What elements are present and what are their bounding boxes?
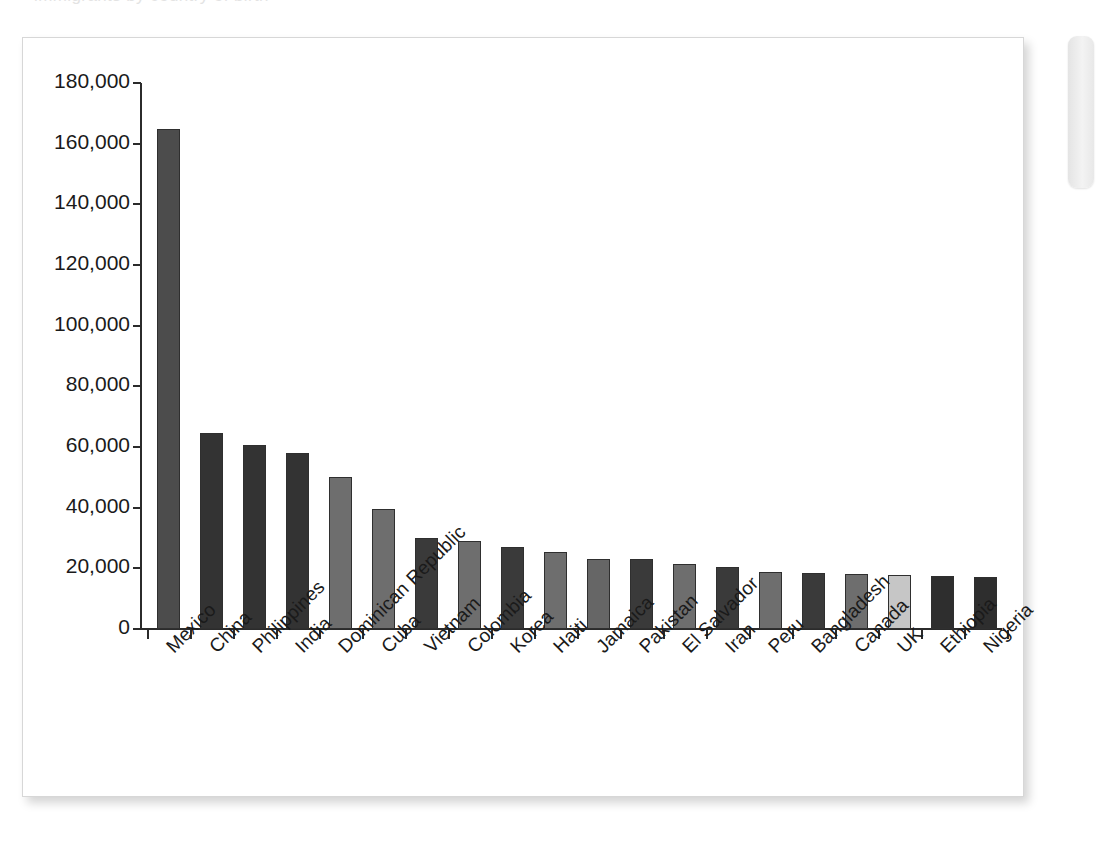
bar-bangladesh[interactable] <box>802 573 825 629</box>
y-axis-tick <box>133 507 141 509</box>
y-axis-tick-label: 80,000 <box>20 372 130 396</box>
y-axis-tick <box>133 264 141 266</box>
y-axis-tick-label: 180,000 <box>20 69 130 93</box>
y-axis-tick <box>133 143 141 145</box>
bar-mexico[interactable] <box>157 129 180 630</box>
y-axis-tick-label: 160,000 <box>20 130 130 154</box>
x-axis-tick <box>147 630 149 639</box>
bar-ethiopia[interactable] <box>931 576 954 629</box>
y-axis-tick-label: 140,000 <box>20 190 130 214</box>
y-axis-tick-label: 20,000 <box>20 554 130 578</box>
y-axis-tick-label: 0 <box>20 615 130 639</box>
y-axis-tick <box>133 628 141 630</box>
y-axis-tick <box>133 325 141 327</box>
page-side-tab[interactable] <box>1068 36 1094 188</box>
bar-philippines[interactable] <box>243 445 266 629</box>
chart-card: 020,00040,00060,00080,000100,000120,0001… <box>22 37 1024 797</box>
y-axis-tick <box>133 203 141 205</box>
y-axis-tick <box>133 385 141 387</box>
y-axis-tick-label: 40,000 <box>20 494 130 518</box>
scan-artifact-text: immigrants by country of birth <box>34 0 269 6</box>
y-axis-tick <box>133 446 141 448</box>
bar-peru[interactable] <box>759 572 782 629</box>
bar-jamaica[interactable] <box>587 559 610 629</box>
y-axis-tick <box>133 82 141 84</box>
y-axis-tick-label: 120,000 <box>20 251 130 275</box>
y-axis-tick-label: 100,000 <box>20 312 130 336</box>
scan-top-text-artifact: immigrants by country of birth <box>0 0 1102 22</box>
y-axis-tick-label: 60,000 <box>20 433 130 457</box>
bar-dominican-republic[interactable] <box>329 477 352 629</box>
bar-chart-plot-area: 020,00040,00060,00080,000100,000120,0001… <box>23 38 1023 796</box>
y-axis-line <box>140 83 142 630</box>
y-axis-tick <box>133 567 141 569</box>
